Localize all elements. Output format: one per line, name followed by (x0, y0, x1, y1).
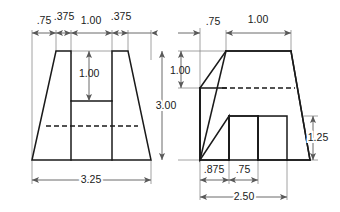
dim-label-fv-325: 3.25 (81, 173, 102, 185)
dim-sv-0875: .875 (200, 163, 229, 180)
dim-fv-375-left: .375 (54, 10, 75, 33)
dim-label-sv-0875: .875 (204, 163, 225, 175)
dim-label-fv-100-depth: 1.00 (79, 67, 100, 79)
dim-label-fv-375-left: .375 (54, 10, 75, 22)
orthographic-drawing-svg: .75 .375 1.00 .375 (0, 0, 340, 212)
side-view: .75 1.00 1.00 3.00 1.25 (156, 13, 329, 202)
dim-label-fv-100-top: 1.00 (81, 14, 102, 26)
dim-label-fv-375-right: .375 (111, 10, 132, 22)
dim-label-fv-075: .75 (37, 14, 52, 26)
front-view: .75 .375 1.00 .375 (32, 10, 151, 185)
technical-drawing-canvas: .75 .375 1.00 .375 (0, 0, 340, 212)
dim-label-sv-100-vert: 1.00 (170, 64, 191, 76)
dim-label-sv-075-top: .75 (206, 15, 221, 27)
dim-sv-250: 2.50 (200, 190, 287, 202)
dim-sv-075-top: .75 (178, 15, 220, 33)
dim-fv-375-right: .375 (111, 10, 132, 33)
dim-label-sv-250: 2.50 (234, 190, 255, 202)
dim-fv-100-top: 1.00 (71, 14, 112, 33)
dim-label-sv-075-bottom: .75 (236, 163, 251, 175)
dim-fv-325: 3.25 (32, 173, 151, 185)
dim-fv-100-depth: 1.00 (79, 51, 100, 101)
dim-sv-075-bottom: .75 (229, 163, 258, 180)
dim-label-sv-125: 1.25 (308, 131, 329, 143)
dim-label-sv-300: 3.00 (156, 99, 177, 111)
dim-fv-075: .75 (32, 14, 56, 33)
dim-sv-100-top: 1.00 (226, 13, 291, 33)
dim-label-sv-100-top: 1.00 (248, 13, 269, 25)
dim-sv-125: 1.25 (308, 116, 329, 160)
dim-sv-100-vert: 1.00 (170, 51, 191, 88)
